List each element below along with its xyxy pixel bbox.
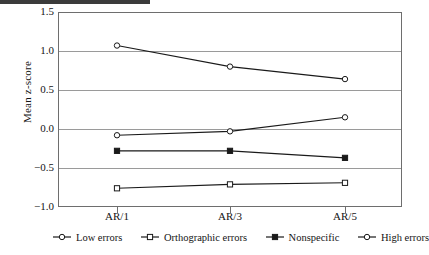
legend-marker-icon [52, 232, 72, 242]
chart-legend: Low errorsOrthographic errorsNonspecific… [52, 228, 429, 246]
y-axis-tick-label: 0.5 [10, 83, 54, 95]
legend-item[interactable]: High errors [357, 232, 429, 243]
legend-marker-icon [357, 232, 377, 242]
y-axis-tick-label: 1.5 [10, 5, 54, 17]
legend-item[interactable]: Nonspecific [265, 232, 340, 243]
gridline [59, 129, 401, 130]
legend-label: Low errors [76, 232, 122, 243]
gridline [59, 90, 401, 91]
legend-marker-icon [265, 232, 285, 242]
legend-label: Orthographic errors [164, 232, 247, 243]
x-axis-tick-label: AR/5 [315, 210, 375, 222]
gridline [59, 51, 401, 52]
gridline [59, 168, 401, 169]
x-axis-tick-label: AR/1 [87, 210, 147, 222]
y-axis-tick-label: −1.0 [10, 200, 54, 212]
y-axis-tick-label: 0.0 [10, 122, 54, 134]
figure-container: Mean z-score 1.51.00.50.0−0.5−1.0 AR/1AR… [0, 0, 429, 255]
scan-artifact-bar [0, 0, 150, 4]
legend-item[interactable]: Low errors [52, 232, 122, 243]
plot-area [58, 12, 402, 207]
y-axis-tick-label: 1.0 [10, 44, 54, 56]
legend-item[interactable]: Orthographic errors [140, 232, 247, 243]
legend-label: Nonspecific [289, 232, 340, 243]
y-axis-tick-label: −0.5 [10, 161, 54, 173]
legend-marker-icon [140, 232, 160, 242]
x-axis-tick-label: AR/3 [200, 210, 260, 222]
legend-label: High errors [381, 232, 429, 243]
